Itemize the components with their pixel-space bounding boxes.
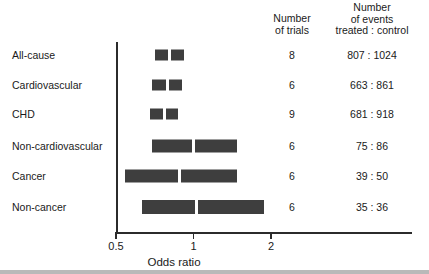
row-value-number-of-trials: 6 [262, 140, 322, 152]
row-value-number-of-events: 663 : 861 [318, 79, 426, 91]
row-value-number-of-trials: 8 [262, 49, 322, 61]
ci-bar-upper [169, 80, 182, 91]
ci-bar-lower [152, 140, 192, 153]
row-label-outcome: Cardiovascular [12, 79, 82, 91]
row-label-outcome: CHD [12, 108, 35, 120]
x-axis-tick-label: 1 [190, 240, 196, 252]
ci-bar-upper [198, 200, 264, 214]
row-value-number-of-events: 681 : 918 [318, 108, 426, 120]
row-value-number-of-trials: 6 [262, 79, 322, 91]
ci-bar-lower [155, 50, 168, 61]
row-label-outcome: Non-cancer [12, 201, 66, 213]
y-axis-line [116, 42, 118, 233]
x-axis-title: Odds ratio [0, 256, 348, 268]
ci-bar-lower [125, 170, 178, 183]
bottom-rule [0, 270, 429, 274]
ci-bar-upper [166, 109, 178, 120]
x-axis-tick [115, 232, 116, 239]
row-value-number-of-events: 807 : 1024 [318, 49, 426, 61]
ci-bar-upper [181, 170, 237, 183]
row-value-number-of-trials: 9 [262, 108, 322, 120]
ci-bar-lower [142, 200, 195, 214]
ci-bar-upper [171, 50, 184, 61]
forest-plot-figure: Number of trials Number of events treate… [0, 0, 429, 274]
row-label-outcome: All-cause [12, 49, 55, 61]
row-label-outcome: Cancer [12, 170, 46, 182]
row-value-number-of-events: 39 : 50 [318, 170, 426, 182]
x-axis-line [116, 232, 412, 234]
row-label-outcome: Non-cardiovascular [12, 140, 102, 152]
x-axis-tick [193, 232, 194, 239]
x-axis-tick-label: 2 [268, 240, 274, 252]
x-axis-tick [270, 232, 271, 239]
row-value-number-of-trials: 6 [262, 170, 322, 182]
ci-bar-lower [152, 80, 166, 91]
row-value-number-of-trials: 6 [262, 201, 322, 213]
plot-area: 0.512 [0, 0, 429, 274]
row-value-number-of-events: 35 : 36 [318, 201, 426, 213]
ci-bar-lower [150, 109, 162, 120]
ci-bar-upper [195, 140, 237, 153]
row-value-number-of-events: 75 : 86 [318, 140, 426, 152]
x-axis-tick-label: 0.5 [108, 240, 123, 252]
